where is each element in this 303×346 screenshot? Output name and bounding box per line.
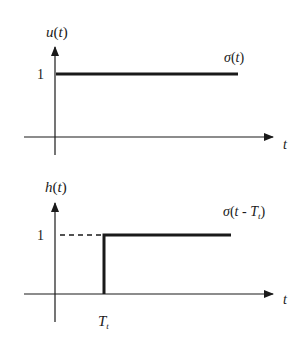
top-y-label: u(t) — [46, 24, 68, 41]
delayed-step-signal — [104, 235, 231, 294]
top-plot: u(t) 1 σ(t) t — [24, 24, 288, 155]
step-response-diagram: u(t) 1 σ(t) t h(t) 1 σ(t - Tt) t Tt — [0, 0, 303, 346]
bottom-x-label: t — [283, 292, 288, 307]
top-x-label: t — [283, 137, 288, 152]
bottom-y-label: h(t) — [45, 179, 67, 196]
bottom-level-label: 1 — [37, 228, 44, 243]
bottom-plot: h(t) 1 σ(t - Tt) t Tt — [24, 179, 288, 331]
top-curve-label: σ(t) — [224, 50, 244, 66]
delay-label: Tt — [98, 313, 109, 331]
top-level-label: 1 — [37, 67, 44, 82]
bottom-curve-label: σ(t - Tt) — [223, 204, 265, 221]
